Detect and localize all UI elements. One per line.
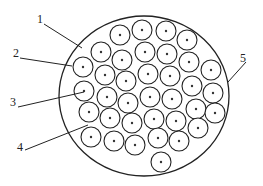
callout-label-1: 1: [37, 12, 43, 26]
strand-core: [214, 112, 216, 114]
strand-core: [88, 111, 90, 113]
strand-core: [169, 75, 171, 77]
callout-label-2: 2: [13, 46, 19, 60]
strand-core: [165, 30, 167, 32]
strand-core: [166, 53, 168, 55]
strand-core: [178, 140, 180, 142]
strand-core: [188, 61, 190, 63]
strand-core: [134, 144, 136, 146]
callout-label-4: 4: [17, 140, 23, 154]
leader-line: [20, 58, 72, 66]
callout-label-3: 3: [10, 95, 16, 109]
strand-core: [109, 117, 111, 119]
strand-core: [125, 80, 127, 82]
leader-line: [18, 92, 84, 107]
strand-core: [106, 96, 108, 98]
strand-core: [149, 96, 151, 98]
strand-core: [90, 136, 92, 138]
leader-line: [228, 62, 246, 82]
strand-core: [186, 39, 188, 41]
strand-core: [157, 137, 159, 139]
strand-core: [119, 34, 121, 36]
strand-core: [195, 108, 197, 110]
strand-core: [144, 51, 146, 53]
strand-core: [127, 102, 129, 104]
strand-core: [175, 120, 177, 122]
callout-label-5: 5: [240, 51, 246, 65]
strand-core: [113, 140, 115, 142]
strand-core: [191, 85, 193, 87]
fiber-bundle-diagram: 12345: [0, 0, 263, 186]
strand-core: [160, 161, 162, 163]
strand-core: [104, 74, 106, 76]
strand-core: [131, 122, 133, 124]
strand-core: [141, 29, 143, 31]
strand-core: [210, 69, 212, 71]
strand-core: [147, 73, 149, 75]
strand-group: [73, 20, 225, 172]
leader-line: [44, 24, 82, 48]
strand-core: [212, 92, 214, 94]
strand-core: [197, 127, 199, 129]
strand-core: [100, 51, 102, 53]
strand-core: [153, 118, 155, 120]
strand-core: [121, 59, 123, 61]
strand-core: [82, 66, 84, 68]
strand-core: [171, 98, 173, 100]
